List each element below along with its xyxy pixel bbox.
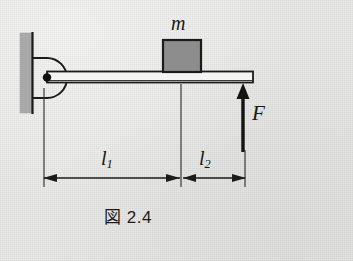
horizontal-beam [47,72,253,83]
mass-label: m [171,13,185,33]
wall-group [20,32,33,114]
dimension-extension-lines [44,84,245,187]
force-arrow-F [237,83,250,152]
dimension-l1 [43,174,180,182]
force-label: F [252,103,265,124]
arrowhead-l2-left [183,174,196,182]
figure-caption: 図 2.4 [104,203,152,228]
length-l1-subscript: 1 [107,157,113,171]
dimension-l2 [183,174,246,182]
arrowhead-l2-right [232,174,246,182]
mass-block [163,40,201,72]
figure-container: m F l1 l2 図 2.4 [0,0,353,261]
lever-diagram [0,0,353,261]
wall-hatching [20,33,32,113]
length-l1-label: l1 [101,148,113,171]
arrowhead-l1-right [166,174,180,182]
pivot-point [43,73,51,81]
length-l2-subscript: 2 [205,157,211,171]
length-l2-label: l2 [199,148,211,171]
arrowhead-l1-left [43,174,57,182]
